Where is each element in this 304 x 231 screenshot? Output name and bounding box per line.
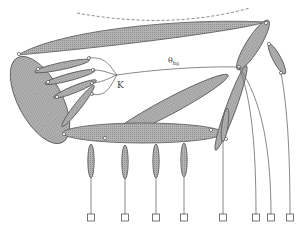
wire-finger-4: [92, 75, 117, 95]
joint: [55, 95, 58, 98]
string-7: [239, 67, 271, 215]
ground-anchor: [287, 214, 294, 221]
hanging-segment-3: [153, 144, 159, 178]
ground-anchor: [220, 214, 227, 221]
hanging-segment-4: [181, 143, 187, 177]
ground-anchor: [88, 214, 95, 221]
ground-anchor: [268, 214, 275, 221]
top-long-segment: [18, 21, 266, 55]
joint: [46, 80, 49, 83]
tensegrity-diagram: K θhg: [0, 0, 304, 231]
hanging-segment-2: [122, 145, 128, 179]
joint: [224, 137, 227, 140]
joint: [17, 52, 20, 55]
wire-k-to-hub: [117, 67, 239, 75]
ground-anchor: [253, 214, 260, 221]
joint: [36, 67, 39, 70]
joint: [103, 136, 106, 139]
right-small-segment: [265, 42, 288, 76]
joint: [264, 21, 267, 24]
ground-anchor: [153, 214, 160, 221]
ground-anchor: [122, 214, 129, 221]
reference-dashed-line: [77, 8, 250, 20]
hanging-segment-1: [88, 144, 94, 178]
joint: [62, 132, 65, 135]
label-theta-subscript: hg: [173, 60, 180, 67]
label-theta: θhg: [168, 56, 180, 67]
joint: [209, 128, 212, 131]
label-k: K: [117, 80, 124, 90]
string-8: [281, 73, 290, 215]
bottom-horizontal-segment: [63, 123, 223, 143]
joint: [267, 42, 270, 45]
ground-anchor: [181, 214, 188, 221]
